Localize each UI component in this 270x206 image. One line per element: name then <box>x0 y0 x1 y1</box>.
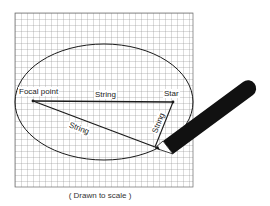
ellipse-diagram: Focal point Star String String String ( … <box>0 0 270 206</box>
star-marker <box>172 101 175 104</box>
star-label: Star <box>163 89 180 98</box>
string-top-label: String <box>94 90 117 99</box>
graph-paper-grid <box>15 13 193 187</box>
focal-point-marker <box>32 100 35 103</box>
caption: ( Drawn to scale ) <box>0 191 200 200</box>
focal-point-label: Focal point <box>18 87 59 96</box>
diagram-canvas <box>0 0 270 206</box>
